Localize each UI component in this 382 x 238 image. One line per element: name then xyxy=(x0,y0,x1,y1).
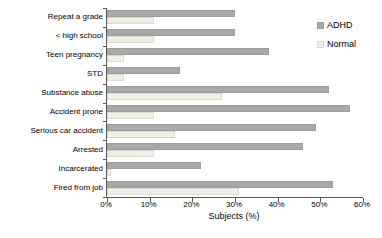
y-axis-tick xyxy=(103,121,106,122)
x-axis-title: Subjects (%) xyxy=(106,211,362,221)
category-label: Fired from job xyxy=(0,178,103,197)
y-axis-tick xyxy=(103,197,106,198)
adhd-bar xyxy=(107,86,329,93)
adhd-bar xyxy=(107,162,201,169)
x-axis-tick-label: 10% xyxy=(141,200,157,209)
y-axis-tick xyxy=(103,46,106,47)
bar-chart-adhd-outcomes: Repeat a grade< high schoolTeen pregnanc… xyxy=(0,0,382,238)
adhd-bar xyxy=(107,105,350,112)
legend-swatch-icon xyxy=(317,22,324,29)
category-label: Teen pregnancy xyxy=(0,46,103,65)
normal-bar xyxy=(107,74,124,81)
normal-bar xyxy=(107,55,124,62)
normal-bar xyxy=(107,169,111,176)
x-axis-tick-label: 60% xyxy=(354,200,370,209)
category-label: Accident prone xyxy=(0,103,103,122)
normal-bar xyxy=(107,112,154,119)
adhd-bar xyxy=(107,143,303,150)
x-axis-tick-label: 0% xyxy=(100,200,112,209)
category-label: Serious car accident xyxy=(0,121,103,140)
bar-group xyxy=(107,65,363,84)
legend-label: Normal xyxy=(327,39,356,49)
normal-bar xyxy=(107,93,222,100)
adhd-bar xyxy=(107,124,316,131)
normal-bar xyxy=(107,17,154,24)
y-axis-tick xyxy=(103,178,106,179)
adhd-bar xyxy=(107,10,235,17)
bar-group xyxy=(107,140,363,159)
x-axis-tick-label: 40% xyxy=(269,200,285,209)
category-label: < high school xyxy=(0,27,103,46)
adhd-bar xyxy=(107,181,333,188)
category-label: STD xyxy=(0,65,103,84)
category-label: Substance abuse xyxy=(0,84,103,103)
legend-item-adhd: ADHD xyxy=(317,20,356,30)
adhd-bar xyxy=(107,29,235,36)
bar-group xyxy=(107,84,363,103)
y-axis-tick xyxy=(103,103,106,104)
y-axis-tick xyxy=(103,159,106,160)
legend-swatch-icon xyxy=(317,41,324,48)
x-axis-tick-label: 20% xyxy=(183,200,199,209)
normal-bar xyxy=(107,150,154,157)
y-axis-tick xyxy=(103,8,106,9)
bar-group xyxy=(107,159,363,178)
legend: ADHDNormal xyxy=(317,20,356,58)
x-axis-tick-label: 50% xyxy=(311,200,327,209)
category-label: Incarcerated xyxy=(0,159,103,178)
adhd-bar xyxy=(107,48,269,55)
legend-label: ADHD xyxy=(327,20,353,30)
legend-item-normal: Normal xyxy=(317,39,356,49)
category-label: Repeat a grade xyxy=(0,8,103,27)
normal-bar xyxy=(107,131,175,138)
x-axis-tick-labels: 0%10%20%30%40%50%60% xyxy=(106,200,362,210)
y-axis-tick xyxy=(103,27,106,28)
normal-bar xyxy=(107,188,239,195)
y-axis-tick xyxy=(103,140,106,141)
bar-group xyxy=(107,103,363,122)
x-axis-tick-label: 30% xyxy=(226,200,242,209)
bar-group xyxy=(107,178,363,197)
normal-bar xyxy=(107,36,154,43)
adhd-bar xyxy=(107,67,180,74)
y-axis-tick xyxy=(103,65,106,66)
y-axis-tick xyxy=(103,84,106,85)
bar-group xyxy=(107,121,363,140)
category-label: Arrested xyxy=(0,140,103,159)
y-axis-category-labels: Repeat a grade< high schoolTeen pregnanc… xyxy=(0,8,103,197)
